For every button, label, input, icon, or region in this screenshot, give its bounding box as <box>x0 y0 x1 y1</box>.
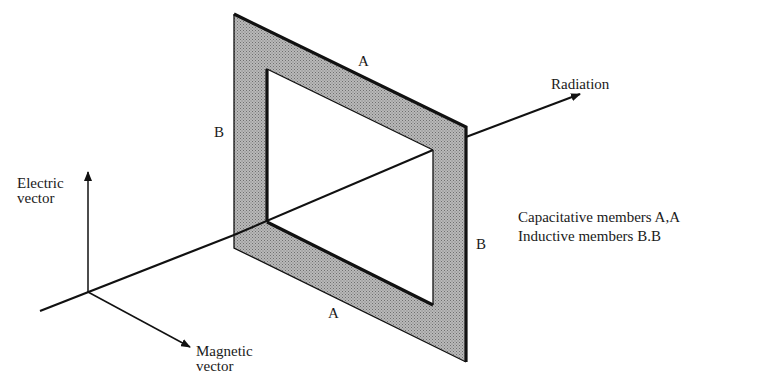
radiation-axis-rear <box>40 222 267 311</box>
label-bottom-member-a: A <box>328 305 339 321</box>
magnetic-vector-arrow <box>88 292 190 347</box>
label-right-member-b: B <box>476 236 486 252</box>
label-electric-line2: vector <box>17 190 54 206</box>
radiation-axis-front <box>466 94 580 137</box>
legend-inductive: Inductive members B.B <box>518 228 661 244</box>
label-magnetic-line2: vector <box>196 358 233 374</box>
waveguide-iris-diagram: A A B B Radiation Electric vector Magnet… <box>0 0 757 391</box>
label-magnetic-line1: Magnetic <box>196 343 253 359</box>
label-radiation: Radiation <box>551 76 610 92</box>
legend-capacitative: Capacitative members A,A <box>518 209 680 225</box>
label-left-member-b: B <box>214 124 224 140</box>
label-electric-line1: Electric <box>17 175 64 191</box>
label-top-member-a: A <box>358 53 369 69</box>
iris-frame <box>234 14 466 362</box>
